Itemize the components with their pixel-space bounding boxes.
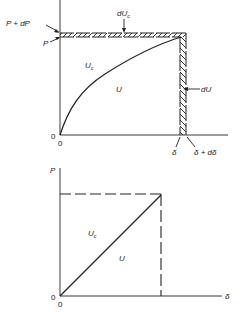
top-figure: P + dP P dUc Uc U dU 0 0 δ δ + dδ [6, 0, 228, 157]
label-delta: δ [172, 148, 177, 157]
label-origin-y-top: 0 [51, 132, 56, 141]
arrow-delta-plus-ddelta [187, 137, 195, 147]
energy-diagrams: P + dP P dUc Uc U dU 0 0 δ δ + dδ P Uc U… [0, 0, 246, 318]
label-origin-x-bottom: 0 [58, 300, 63, 309]
label-u-bottom: U [119, 254, 125, 263]
label-u: U [116, 85, 122, 94]
label-origin-y-bottom: 0 [51, 293, 56, 302]
linear-load-line [60, 195, 161, 296]
label-p: P [43, 39, 49, 48]
label-du: dU [201, 85, 211, 94]
label-duc: dUc [117, 9, 130, 19]
label-origin-x-top: 0 [58, 139, 63, 148]
label-uc-bottom: Uc [88, 229, 97, 239]
arrow-delta [176, 137, 180, 147]
label-p-plus-dp: P + dP [6, 19, 31, 28]
label-delta-axis: δ [225, 292, 230, 301]
label-delta-plus-ddelta: δ + dδ [194, 148, 217, 157]
duc-strip [60, 33, 186, 37]
label-uc: Uc [85, 61, 94, 71]
label-p-axis: P [50, 166, 56, 175]
du-strip [180, 37, 186, 135]
bottom-figure: P Uc U 0 0 δ [50, 166, 230, 309]
